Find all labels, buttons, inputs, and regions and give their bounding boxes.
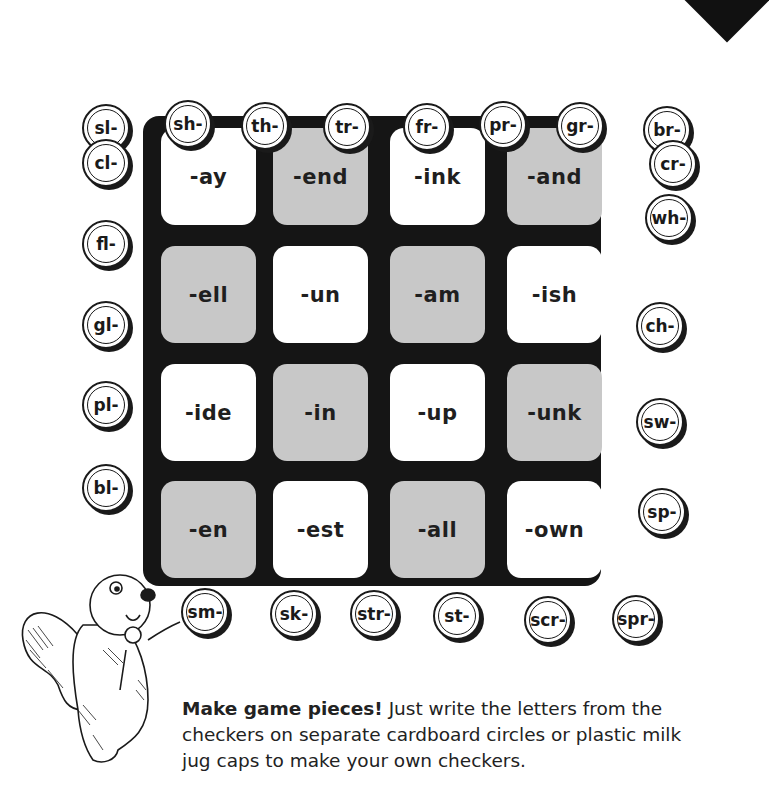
checker-label: wh- bbox=[652, 208, 687, 228]
board-square[interactable]: -up bbox=[390, 364, 485, 461]
checker-label: sk- bbox=[280, 604, 308, 624]
checker-label: sp- bbox=[647, 502, 676, 522]
checker-label: str- bbox=[357, 604, 391, 624]
checker-label: gr- bbox=[566, 116, 594, 136]
board-square[interactable]: -ide bbox=[161, 364, 256, 461]
checker-piece[interactable]: cr- bbox=[649, 140, 697, 188]
checker-label: br- bbox=[653, 120, 681, 140]
board-square[interactable]: -est bbox=[273, 481, 368, 578]
checker-label: sh- bbox=[173, 114, 202, 134]
board-square[interactable]: -ish bbox=[507, 246, 602, 343]
checker-label: spr- bbox=[617, 609, 655, 629]
board-square[interactable]: -all bbox=[390, 481, 485, 578]
checker-piece[interactable]: gl- bbox=[82, 301, 130, 349]
skunk-illustration-icon bbox=[8, 560, 208, 775]
checker-label: pl- bbox=[93, 395, 118, 415]
checker-label: th- bbox=[251, 116, 278, 136]
checker-piece[interactable]: tr- bbox=[323, 103, 371, 151]
checker-label: scr- bbox=[530, 610, 566, 630]
board-square[interactable]: -own bbox=[507, 481, 602, 578]
checker-label: fl- bbox=[96, 234, 116, 254]
caption-heading: Make game pieces! bbox=[182, 698, 383, 719]
checker-label: sl- bbox=[94, 118, 117, 138]
checker-label: pr- bbox=[489, 115, 517, 135]
board-square[interactable]: -unk bbox=[507, 364, 602, 461]
checker-piece[interactable]: ch- bbox=[636, 302, 684, 350]
checker-label: bl- bbox=[93, 478, 118, 498]
checker-label: gl- bbox=[93, 315, 118, 335]
checker-piece[interactable]: sw- bbox=[636, 398, 684, 446]
checker-piece[interactable]: wh- bbox=[645, 194, 693, 242]
checker-piece[interactable]: bl- bbox=[82, 464, 130, 512]
checker-piece[interactable]: st- bbox=[433, 592, 481, 640]
board-square[interactable]: -un bbox=[273, 246, 368, 343]
checker-piece[interactable]: sk- bbox=[270, 590, 318, 638]
board-square[interactable]: -in bbox=[273, 364, 368, 461]
checker-piece[interactable]: sh- bbox=[164, 100, 212, 148]
checker-piece[interactable]: th- bbox=[241, 102, 289, 150]
checker-piece[interactable]: sp- bbox=[638, 488, 686, 536]
checker-piece[interactable]: cl- bbox=[82, 139, 130, 187]
checker-label: fr- bbox=[416, 117, 439, 137]
game-board: -ay-end-ink-and-ell-un-am-ish-ide-in-up-… bbox=[143, 116, 601, 586]
board-square[interactable]: -am bbox=[390, 246, 485, 343]
checker-piece[interactable]: fr- bbox=[403, 103, 451, 151]
board-square[interactable]: -ell bbox=[161, 246, 256, 343]
checker-label: cl- bbox=[95, 153, 118, 173]
checker-piece[interactable]: pr- bbox=[479, 101, 527, 149]
checker-label: sw- bbox=[644, 412, 677, 432]
checker-label: tr- bbox=[335, 117, 359, 137]
checker-label: st- bbox=[444, 606, 469, 626]
checker-piece[interactable]: spr- bbox=[612, 595, 660, 643]
instructions-caption: Make game pieces! Just write the letters… bbox=[182, 696, 702, 774]
checker-piece[interactable]: fl- bbox=[82, 220, 130, 268]
checker-piece[interactable]: pl- bbox=[82, 381, 130, 429]
checker-piece[interactable]: scr- bbox=[524, 596, 572, 644]
checker-piece[interactable]: str- bbox=[350, 590, 398, 638]
checker-piece[interactable]: gr- bbox=[556, 102, 604, 150]
checker-label: ch- bbox=[645, 316, 674, 336]
page-corner-decoration bbox=[685, 0, 769, 42]
checker-label: cr- bbox=[660, 154, 686, 174]
